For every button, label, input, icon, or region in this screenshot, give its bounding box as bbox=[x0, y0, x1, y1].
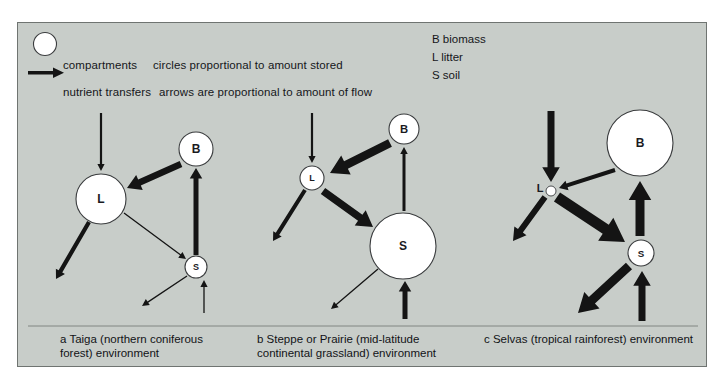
svg-text:B: B bbox=[636, 136, 645, 150]
legend-compartments-label: compartments bbox=[63, 59, 137, 71]
compartment-b-soil: S bbox=[370, 213, 436, 279]
flow-arrow-a-S-to-B bbox=[190, 168, 203, 255]
compartment-a-soil: S bbox=[185, 256, 207, 278]
legend-transfers-note: arrows are proportional to amount of flo… bbox=[159, 86, 372, 98]
svg-text:S: S bbox=[399, 239, 407, 253]
diagram-canvas: LBSLBSLBS bbox=[18, 23, 708, 368]
flow-arrow-b-S-to-B bbox=[400, 147, 408, 211]
compartment-a-biomass: B bbox=[179, 132, 213, 166]
compartment-b-biomass: B bbox=[389, 114, 419, 144]
figure-panel: LBSLBSLBS compartments circles proportio… bbox=[17, 22, 707, 367]
svg-text:B: B bbox=[400, 123, 408, 135]
compartment-a-litter: L bbox=[76, 174, 126, 224]
flow-arrow-a-L-to-S bbox=[124, 212, 186, 259]
compartment-c-litter: L bbox=[537, 182, 556, 196]
svg-text:S: S bbox=[638, 248, 645, 259]
flow-arrow-a-S-to-leaching-loss bbox=[142, 275, 187, 306]
compartment-c-soil: S bbox=[628, 240, 654, 266]
legend-transfers-label: nutrient transfers bbox=[63, 86, 151, 98]
key-item-biomass: B biomass bbox=[432, 33, 486, 45]
flow-arrow-c-L-to-S bbox=[554, 192, 625, 242]
legend-thick-right-arrow-icon bbox=[28, 68, 64, 79]
svg-text:S: S bbox=[193, 262, 199, 272]
svg-text:B: B bbox=[192, 142, 201, 156]
caption-panel-c: c Selvas (tropical rainforest) environme… bbox=[484, 333, 719, 347]
legend-glyphs bbox=[28, 33, 64, 79]
caption-panel-b: b Steppe or Prairie (mid-latitude contin… bbox=[257, 333, 487, 360]
compartment-c-biomass: B bbox=[607, 110, 673, 176]
flow-arrow-c-weathering-input-to-S bbox=[633, 271, 651, 321]
flow-arrow-c-B-to-L bbox=[559, 168, 616, 190]
svg-text:L: L bbox=[537, 182, 544, 194]
flow-arrow-a-L-to-runoff-loss bbox=[56, 221, 91, 279]
flow-arrows-layer bbox=[56, 111, 651, 321]
flow-arrow-a-weathering-input-to-S bbox=[200, 280, 207, 313]
key-item-litter: L litter bbox=[432, 51, 463, 63]
flow-arrow-b-S-to-leaching-loss bbox=[331, 269, 378, 310]
flow-arrow-a-B-to-L bbox=[127, 161, 182, 190]
caption-panel-a: a Taiga (northern coniferous forest) env… bbox=[60, 333, 270, 360]
flow-arrow-c-L-to-runoff-loss bbox=[513, 195, 547, 241]
figure-root: LBSLBSLBS compartments circles proportio… bbox=[0, 0, 722, 387]
compartment-b-litter: L bbox=[300, 166, 324, 190]
flow-arrow-b-L-to-runoff-loss bbox=[273, 189, 307, 241]
legend-open-circle-icon bbox=[34, 33, 57, 56]
flow-arrow-c-S-to-B bbox=[629, 181, 652, 236]
legend-compartments-note: circles proportional to amount stored bbox=[153, 59, 343, 71]
svg-text:L: L bbox=[309, 173, 315, 183]
flow-arrow-b-weathering-input-to-S bbox=[399, 281, 412, 319]
flow-arrow-b-B-to-L bbox=[330, 139, 392, 174]
flow-arrow-a-precipitation-input-to-L bbox=[97, 113, 104, 171]
flow-arrow-c-S-to-leaching-loss bbox=[578, 263, 632, 313]
flow-arrow-c-precipitation-input-to-L bbox=[542, 111, 560, 182]
flow-arrow-b-L-to-S bbox=[321, 188, 373, 227]
key-item-soil: S soil bbox=[432, 69, 460, 81]
compartment-nodes-layer: LBSLBSLBS bbox=[76, 110, 673, 279]
svg-text:L: L bbox=[97, 192, 104, 206]
flow-arrow-b-precipitation-input-to-L bbox=[308, 113, 315, 163]
